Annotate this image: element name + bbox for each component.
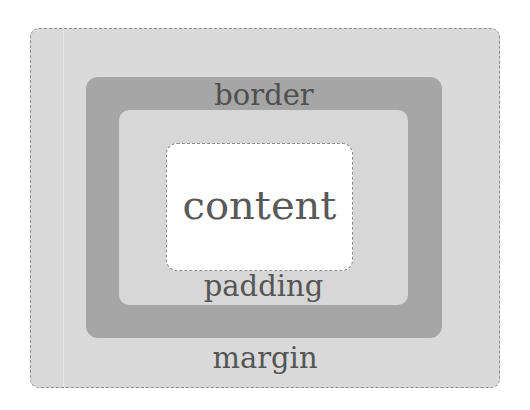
margin-label: margin	[30, 344, 500, 373]
content-label: content	[166, 185, 353, 225]
margin-guide-line	[63, 30, 64, 386]
padding-label: padding	[119, 272, 408, 301]
border-label: border	[86, 81, 442, 110]
